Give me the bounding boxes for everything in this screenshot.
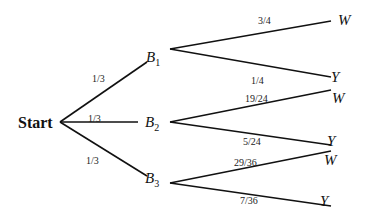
outcome-b3-y: Y (320, 193, 330, 209)
prob-b2-y: 5/24 (243, 136, 261, 147)
prob-b1-w: 3/4 (258, 15, 271, 26)
prob-b3: 1/3 (86, 155, 99, 166)
outcome-b1-w: W (338, 12, 352, 28)
prob-b3-y: 7/36 (240, 195, 258, 206)
prob-b1: 1/3 (92, 73, 105, 84)
edge-b1-w (170, 21, 331, 49)
outcome-b1-y: Y (331, 69, 341, 85)
prob-b2: 1/3 (88, 113, 101, 124)
start-label: Start (18, 114, 53, 131)
outcome-b2-w: W (332, 90, 346, 106)
prob-b1-y: 1/4 (251, 75, 264, 86)
edge-start-b1 (60, 62, 147, 122)
node-b1: B1 (146, 49, 160, 68)
node-b2: B2 (145, 114, 159, 133)
outcome-b2-y: Y (327, 133, 337, 149)
probability-tree: Start 1/3 1/3 1/3 B1 B2 B3 3/4 1/4 19/24… (0, 0, 369, 217)
prob-b2-w: 19/24 (245, 93, 268, 104)
node-b3: B3 (145, 170, 159, 189)
outcome-b3-w: W (324, 152, 338, 168)
prob-b3-w: 29/36 (234, 157, 257, 168)
edge-b1-y (170, 49, 331, 77)
edge-start-b3 (60, 122, 147, 176)
